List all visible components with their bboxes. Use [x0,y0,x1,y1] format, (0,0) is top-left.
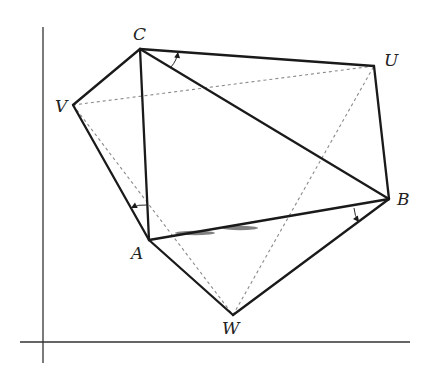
label-A: A [129,243,143,263]
edge-VW [73,105,233,315]
edge-VA [73,105,149,240]
edge-WU [233,66,374,315]
edge-CV [73,49,140,105]
label-C: C [133,24,146,44]
geometry-diagram: C U V B A W [0,0,435,373]
edge-WB [233,199,389,315]
label-U: U [384,50,399,70]
arrow-at-B-icon [353,208,359,222]
dashed-edges [73,66,374,315]
label-W: W [222,318,241,338]
edge-AW [149,240,233,315]
label-B: B [396,189,410,209]
edge-CB [140,49,389,199]
label-V: V [55,96,69,116]
rotation-arrows [131,52,359,222]
edge-BU [374,66,389,199]
solid-edges [73,49,389,315]
arrow-at-C-icon [171,52,180,67]
scan-smudge [175,226,258,235]
arrow-at-A-icon [131,203,147,208]
edge-CA [140,49,149,240]
